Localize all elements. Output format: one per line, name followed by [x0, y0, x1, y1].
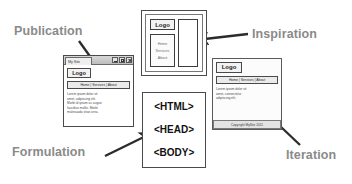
site-navbar[interactable]: Home | Services | About	[67, 81, 130, 89]
window-tab[interactable]: My Site	[65, 57, 92, 65]
wireframe-content-area	[178, 19, 198, 67]
nav-item-about[interactable]: About	[158, 56, 167, 60]
site-body-text: Lorem ipsum dolor sit amet, adipiscing e…	[67, 92, 130, 115]
inspiration-wireframe[interactable]: Logo Home Services About	[141, 10, 207, 76]
site-logo[interactable]: Logo	[216, 62, 242, 73]
maximize-icon[interactable]	[119, 57, 125, 63]
wireframe-frame: Logo Home Services About	[145, 14, 203, 72]
code-tag-body: <BODY>	[143, 147, 205, 158]
code-tag-head: <HEAD>	[143, 124, 205, 135]
window-controls	[112, 57, 132, 63]
site-logo[interactable]: Logo	[67, 68, 91, 78]
site-navbar[interactable]: Home | Services | About	[216, 76, 278, 84]
body-line: adipiscing elit.	[216, 96, 278, 101]
site-body-text: Lorem ipsum dolor sit amet, consectetur …	[216, 87, 278, 101]
publication-browser-window[interactable]: My Site Logo Home | Services | About Lor…	[63, 55, 134, 127]
nav-item-home[interactable]: Home	[158, 42, 168, 46]
minimize-icon[interactable]	[112, 57, 118, 63]
body-line: malesuada vitae urna.	[67, 110, 130, 115]
formulation-code-panel[interactable]: <HTML> <HEAD> <BODY>	[142, 92, 206, 168]
window-titlebar[interactable]: My Site	[64, 56, 133, 65]
window-content: Logo Home | Services | About Lorem ipsum…	[64, 65, 133, 126]
nav-item-services[interactable]: Services	[156, 49, 170, 53]
diagram-canvas: Publication Inspiration Formulation Iter…	[0, 0, 352, 184]
iteration-content: Logo Home | Services | About Lorem ipsum…	[216, 62, 278, 126]
wireframe-logo[interactable]: Logo	[150, 19, 175, 30]
iteration-page-mock[interactable]: Logo Home | Services | About Lorem ipsum…	[212, 58, 282, 130]
code-tag-html: <HTML>	[143, 101, 205, 112]
wireframe-sidebar-nav[interactable]: Home Services About	[150, 34, 175, 67]
close-icon[interactable]	[126, 57, 132, 63]
site-footer: Copyright MySite 2011	[213, 120, 281, 129]
